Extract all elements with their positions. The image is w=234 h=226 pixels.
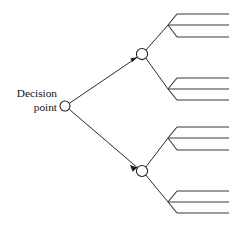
fan-upper-a-spoke-3 — [168, 25, 177, 37]
fan-upper-b-stem — [146, 58, 168, 89]
fan-lower-b-spoke-3 — [168, 202, 177, 213]
lower-branch-line — [70, 110, 138, 168]
fan-lower-a-stem — [146, 138, 168, 167]
fan-upper-a-spoke-1 — [168, 14, 177, 25]
decision-point-node[interactable] — [60, 101, 70, 111]
decision-label-line1: Decision — [17, 87, 58, 99]
fan-lower-b-spoke-1 — [168, 191, 177, 202]
decision-label-line2: point — [34, 101, 58, 113]
upper-chance-node[interactable] — [136, 48, 147, 59]
fan-upper-a — [146, 14, 229, 50]
upper-branch-line — [70, 57, 138, 103]
decision-tree-diagram: Decision point — [0, 0, 234, 226]
fan-lower-b — [146, 175, 229, 213]
decision-point-label: Decision point — [17, 87, 58, 113]
fan-upper-b-spoke-1 — [168, 78, 177, 89]
main-branches — [70, 57, 138, 172]
fan-lower-b-stem — [146, 175, 168, 202]
fan-lower-a-spoke-1 — [168, 127, 177, 138]
lower-chance-node[interactable] — [136, 165, 147, 176]
fan-lower-a — [146, 127, 229, 167]
decision-tree-canvas: Decision point — [0, 0, 234, 226]
fan-upper-b — [146, 58, 229, 100]
fan-upper-a-stem — [146, 25, 168, 50]
fan-upper-b-spoke-3 — [168, 89, 177, 100]
fan-lower-a-spoke-3 — [168, 138, 177, 150]
